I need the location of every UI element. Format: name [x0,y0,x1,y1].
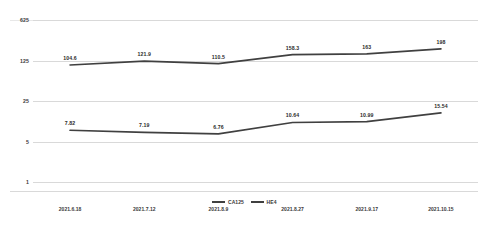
y-axis-tick-label: 625 [20,17,29,23]
data-point-label: 10.99 [360,112,373,118]
line-chart: 1525125625 2021.6.182021.7.122021.8.9202… [0,0,489,226]
chart-legend: CA125HE4 [0,199,489,205]
data-point-label: 7.19 [139,122,150,128]
x-axis-tick-label: 2021.10.15 [428,206,454,212]
legend-label: HE4 [267,199,277,205]
legend-item[interactable]: HE4 [251,199,277,205]
data-point-label: 158.3 [286,45,299,51]
data-point-label: 7.82 [65,120,76,126]
x-axis-tick-label: 2021.7.12 [133,206,156,212]
x-axis-tick-label: 2021.8.27 [281,206,304,212]
data-point-label: 6.76 [213,124,224,130]
series-line [70,113,441,134]
y-axis-tick-label: 1 [26,179,29,185]
y-axis-tick-label: 5 [26,139,29,145]
gridline [33,182,478,183]
data-point-label: 15.54 [434,103,447,109]
data-point-label: 198 [436,39,445,45]
data-point-label: 121.9 [138,51,151,57]
legend-line-icon [212,201,225,203]
legend-line-icon [251,201,264,203]
legend-item[interactable]: CA125 [212,199,244,205]
series-lines [33,20,478,182]
x-axis-tick-label: 2021.9.17 [355,206,378,212]
data-point-label: 163 [362,44,371,50]
series-line [70,49,441,65]
x-axis-tick-label: 2021.8.9 [208,206,228,212]
plot-area: 1525125625 2021.6.182021.7.122021.8.9202… [33,20,478,182]
y-axis-tick-label: 25 [23,98,29,104]
y-axis-tick-label: 125 [20,58,29,64]
data-point-label: 104.6 [63,55,76,61]
data-point-label: 110.5 [212,54,225,60]
x-axis-tick-label: 2021.6.18 [59,206,82,212]
legend-label: CA125 [228,199,244,205]
data-point-label: 10.64 [286,112,299,118]
